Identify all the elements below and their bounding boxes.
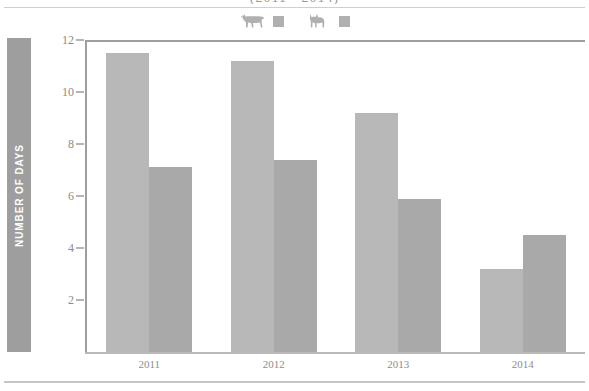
bar-cats-2012[interactable] xyxy=(274,160,317,352)
y-tick-mark xyxy=(76,247,84,249)
y-axis-title-bar: NUMBER OF DAYS xyxy=(7,38,31,352)
bar-group xyxy=(87,40,212,352)
y-tick-label: 10 xyxy=(36,85,74,99)
bar-dogs-2013[interactable] xyxy=(355,113,398,352)
x-tick-label: 2011 xyxy=(87,358,212,370)
y-tick-mark xyxy=(76,143,84,145)
y-tick-label: 8 xyxy=(36,137,74,151)
y-tick-mark xyxy=(76,91,84,93)
y-axis-title: NUMBER OF DAYS xyxy=(14,144,25,247)
bar-cats-2014[interactable] xyxy=(523,235,566,352)
cat-icon xyxy=(306,12,332,30)
x-axis-labels: 2011201220132014 xyxy=(87,358,585,376)
y-tick-mark xyxy=(76,299,84,301)
bar-group xyxy=(212,40,337,352)
y-tick-label: 6 xyxy=(36,189,74,203)
x-axis-line xyxy=(85,352,585,354)
bar-group xyxy=(336,40,461,352)
chart-container: (2011 - 2014) Dogs Cats NUMBER OF xyxy=(0,0,589,391)
x-tick-label: 2012 xyxy=(212,358,337,370)
bar-dogs-2012[interactable] xyxy=(231,61,274,352)
bar-dogs-2011[interactable] xyxy=(106,53,149,352)
x-tick-label: 2013 xyxy=(336,358,461,370)
bar-cats-2013[interactable] xyxy=(398,199,441,352)
y-tick-label: 12 xyxy=(36,33,74,47)
legend-swatch-cats xyxy=(339,16,350,27)
bar-cats-2011[interactable] xyxy=(149,167,192,352)
x-tick-label: 2014 xyxy=(461,358,586,370)
chart-title-clipped: (2011 - 2014) xyxy=(0,0,589,4)
y-tick-label: 4 xyxy=(36,241,74,255)
dog-icon xyxy=(240,12,266,30)
chart-title-text: (2011 - 2014) xyxy=(250,0,339,4)
y-tick-label: 2 xyxy=(36,293,74,307)
y-tick-mark xyxy=(76,39,84,41)
chart-legend: Dogs Cats xyxy=(0,9,589,33)
bottom-divider xyxy=(4,381,585,383)
bars-area xyxy=(87,40,585,352)
top-divider xyxy=(4,7,585,8)
plot-area: 24681012 xyxy=(36,34,585,356)
legend-item-dogs[interactable]: Dogs xyxy=(240,12,284,30)
legend-item-cats[interactable]: Cats xyxy=(306,12,350,30)
legend-swatch-dogs xyxy=(273,16,284,27)
bar-dogs-2014[interactable] xyxy=(480,269,523,352)
y-tick-mark xyxy=(76,195,84,197)
bar-group xyxy=(461,40,586,352)
